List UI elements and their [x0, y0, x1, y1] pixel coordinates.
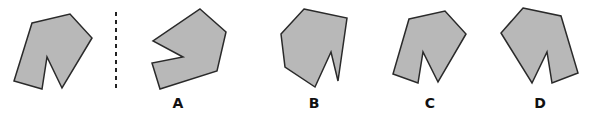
option-d-shape[interactable]	[501, 8, 578, 83]
option-a-label[interactable]: A	[168, 95, 188, 111]
option-a-shape[interactable]	[152, 9, 226, 89]
option-b-label[interactable]: B	[304, 95, 324, 111]
option-d-label[interactable]: D	[530, 95, 550, 111]
puzzle-figure	[0, 0, 591, 115]
option-c-shape[interactable]	[393, 11, 466, 83]
original-shape	[14, 14, 92, 89]
option-c-label[interactable]: C	[420, 95, 440, 111]
option-b-shape[interactable]	[281, 9, 347, 87]
